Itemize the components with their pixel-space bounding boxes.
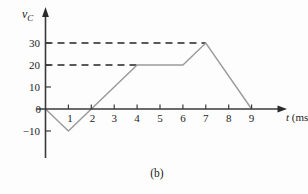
y-tick-label-30: 30 xyxy=(29,37,41,49)
x-tick-label-9: 9 xyxy=(249,112,255,124)
capacitor-voltage-chart: 30 20 10 0 −10 1 2 3 4 5 6 7 8 9 vC t (m… xyxy=(0,0,308,194)
x-tick-label-4: 4 xyxy=(134,112,140,124)
y-axis-title: vC xyxy=(22,7,34,23)
y-tick-label-20: 20 xyxy=(29,59,41,71)
y-axis-arrow-icon xyxy=(42,7,49,17)
x-tick-label-7: 7 xyxy=(203,112,209,124)
x-tick-label-3: 3 xyxy=(111,112,117,124)
y-tick-label-10: 10 xyxy=(29,81,41,93)
x-tick-label-8: 8 xyxy=(226,112,232,124)
x-tick-label-2: 2 xyxy=(90,112,96,124)
waveform-figure: 30 20 10 0 −10 1 2 3 4 5 6 7 8 9 vC t (m… xyxy=(0,0,308,194)
voltage-waveform xyxy=(46,43,252,131)
figure-caption: (b) xyxy=(150,167,164,180)
x-axis-title: t (ms) xyxy=(286,111,308,124)
x-tick-label-6: 6 xyxy=(180,112,186,124)
y-tick-label-neg10: −10 xyxy=(23,125,41,137)
y-tick-label-0: 0 xyxy=(36,103,42,115)
x-tick-label-1: 1 xyxy=(67,112,73,124)
y-axis-ticks xyxy=(46,43,52,131)
x-tick-label-5: 5 xyxy=(157,112,163,124)
